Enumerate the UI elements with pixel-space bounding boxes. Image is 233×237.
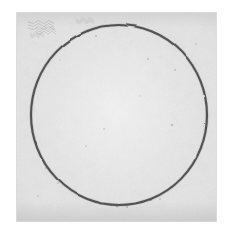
artwork-canvas — [0, 0, 233, 237]
paper-grain-overlay — [16, 12, 217, 222]
artwork-scene: A hand-drawn dark circle outline centere… — [0, 0, 233, 237]
